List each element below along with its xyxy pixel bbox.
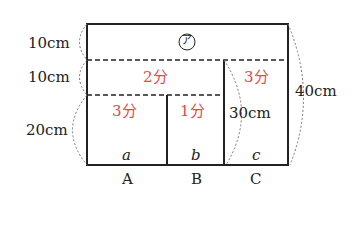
time-b: 1分 (180, 104, 205, 119)
dim-20cm: 20cm (26, 123, 68, 138)
mark-label: ア (181, 35, 192, 46)
letter-c: c (252, 148, 260, 163)
letter-a: a (122, 148, 131, 163)
letter-b: b (191, 148, 201, 163)
tank-label-c: C (250, 172, 261, 187)
dim-40cm: 40cm (295, 84, 337, 99)
time-c: 3分 (244, 70, 269, 85)
dim-10cm-top: 10cm (28, 36, 70, 51)
time-a: 3分 (112, 104, 137, 119)
dim-10cm-mid: 10cm (28, 70, 70, 85)
tank-label-b: B (191, 172, 202, 187)
time-2min: 2分 (143, 70, 168, 85)
tank-label-a: A (122, 172, 133, 187)
dim-30cm: 30cm (229, 106, 271, 121)
